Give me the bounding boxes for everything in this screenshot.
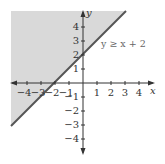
x-axis-label: x [150, 85, 156, 96]
x-tick-label: 2 [108, 87, 114, 98]
y-tick-label: −1 [64, 91, 79, 102]
x-tick-labels: −4 −3 −2 −1 1 2 3 4 [17, 87, 143, 98]
y-tick-label: 1 [73, 63, 79, 74]
y-tick-label: 2 [73, 49, 79, 60]
x-tick-label: 4 [136, 87, 142, 98]
y-tick-label: −4 [64, 133, 79, 144]
x-tick-label: 1 [94, 87, 100, 98]
y-tick-label: 4 [73, 21, 79, 32]
x-tick-label: −4 [17, 87, 32, 98]
y-axis-arrow-down-icon [81, 148, 86, 155]
y-tick-label: 3 [73, 35, 79, 46]
inequality-label: y ≥ x + 2 [100, 38, 146, 49]
inequality-graph: −4 −3 −2 −1 1 2 3 4 4 3 2 1 −1 −2 −3 −4 … [0, 0, 165, 164]
y-tick-label: −3 [64, 119, 79, 130]
y-tick-label: −2 [64, 105, 79, 116]
y-axis-label: y [85, 7, 92, 18]
x-tick-label: −3 [31, 87, 46, 98]
x-tick-label: −2 [45, 87, 60, 98]
x-tick-label: 3 [122, 87, 128, 98]
